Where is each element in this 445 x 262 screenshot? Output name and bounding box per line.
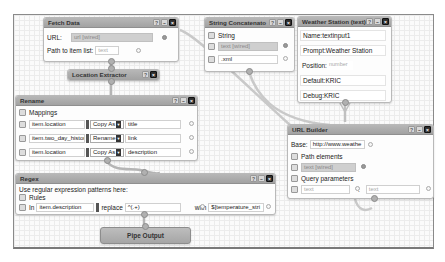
string-terminal[interactable] bbox=[283, 43, 288, 48]
path-terminal[interactable] bbox=[136, 48, 141, 53]
minimize-icon[interactable]: – bbox=[161, 19, 168, 26]
field-picker-icon[interactable] bbox=[96, 203, 99, 212]
regex-replace-input[interactable]: ^(.+) bbox=[125, 203, 181, 212]
add-string-button[interactable] bbox=[208, 32, 215, 39]
default-field[interactable]: Default:KRIC bbox=[300, 75, 386, 86]
output-terminal[interactable] bbox=[141, 211, 148, 218]
regex-with-input[interactable]: $[temperature_stri bbox=[208, 203, 264, 212]
help-icon[interactable]: ? bbox=[408, 126, 415, 133]
pipe-output-module[interactable]: Pipe Output bbox=[100, 227, 191, 244]
url-terminal[interactable] bbox=[162, 35, 167, 40]
module-title: Fetch Data bbox=[48, 19, 80, 26]
mapping-field-input[interactable]: item.location bbox=[29, 148, 85, 157]
with-terminal[interactable] bbox=[266, 204, 271, 209]
input-terminal[interactable] bbox=[141, 169, 148, 176]
path-input[interactable]: text bbox=[95, 46, 119, 55]
help-icon[interactable]: ? bbox=[172, 97, 179, 104]
fetch-data-header[interactable]: Fetch Data ? – × bbox=[44, 18, 178, 28]
query-key-input[interactable]: text bbox=[301, 185, 350, 194]
input-terminal[interactable] bbox=[108, 65, 115, 72]
query-value-input[interactable]: text bbox=[366, 185, 420, 194]
path-element-terminal[interactable] bbox=[361, 164, 366, 169]
regex-description: Use regular expression patterns here: bbox=[19, 186, 128, 193]
minimize-icon[interactable]: – bbox=[258, 175, 265, 182]
base-input[interactable]: http://www.weathe bbox=[310, 140, 365, 149]
string-terminal[interactable] bbox=[283, 56, 288, 61]
remove-string-button[interactable] bbox=[208, 43, 215, 50]
rename-module[interactable]: Rename ? – × Mappings item.location Copy… bbox=[15, 95, 198, 161]
output-terminal[interactable] bbox=[371, 195, 378, 202]
mapping-op-select[interactable]: Copy As ▼ bbox=[90, 148, 124, 157]
help-icon[interactable]: ? bbox=[142, 71, 149, 78]
weather-station-header[interactable]: Weather Station (text) ? – × bbox=[298, 17, 391, 27]
close-icon[interactable]: × bbox=[424, 126, 431, 133]
regex-in-input[interactable]: item.description bbox=[36, 203, 94, 212]
close-icon[interactable]: × bbox=[285, 19, 292, 26]
mapping-field-input[interactable]: item.two_day_history bbox=[29, 134, 85, 143]
field-picker-icon[interactable] bbox=[86, 134, 89, 143]
string-input[interactable]: .xml bbox=[218, 55, 278, 64]
query-key-terminal[interactable] bbox=[355, 186, 360, 191]
add-rule-button[interactable] bbox=[19, 194, 26, 201]
close-icon[interactable]: × bbox=[188, 97, 195, 104]
string-concatenate-header[interactable]: String Concatenato ? – × bbox=[205, 18, 294, 28]
regex-module[interactable]: Regex ? – × Use regular expression patte… bbox=[15, 173, 276, 215]
input-terminal[interactable] bbox=[142, 223, 149, 230]
url-input[interactable]: url [wired] bbox=[71, 33, 153, 42]
output-terminal[interactable] bbox=[246, 68, 253, 75]
string-input[interactable]: text [wired] bbox=[218, 42, 278, 51]
field-picker-icon[interactable] bbox=[86, 120, 89, 129]
rename-header[interactable]: Rename ? – × bbox=[16, 96, 197, 106]
field-picker-icon[interactable] bbox=[86, 148, 89, 157]
remove-mapping-button[interactable] bbox=[19, 121, 26, 128]
url-builder-header[interactable]: URL Builder ? – × bbox=[288, 125, 433, 135]
query-value-terminal[interactable] bbox=[426, 186, 431, 191]
remove-mapping-button[interactable] bbox=[19, 149, 26, 156]
remove-path-element-button[interactable] bbox=[291, 164, 298, 171]
minimize-icon[interactable]: – bbox=[277, 19, 284, 26]
path-element-input[interactable]: text [wired] bbox=[301, 163, 356, 172]
fetch-data-module[interactable]: Fetch Data ? – × URL: url [wired] Path t… bbox=[43, 17, 179, 62]
mapping-terminal[interactable] bbox=[189, 121, 194, 126]
mapping-terminal[interactable] bbox=[189, 149, 194, 154]
remove-rule-button[interactable] bbox=[19, 204, 26, 211]
output-terminal[interactable] bbox=[108, 58, 115, 65]
help-icon[interactable]: ? bbox=[269, 19, 276, 26]
remove-mapping-button[interactable] bbox=[19, 135, 26, 142]
mapping-target-input[interactable]: title bbox=[125, 120, 181, 129]
add-mapping-button[interactable] bbox=[19, 109, 26, 116]
output-terminal[interactable] bbox=[108, 78, 115, 85]
location-extractor-module[interactable]: Location Extractor ? × bbox=[67, 69, 160, 81]
mapping-target-input[interactable]: description bbox=[125, 148, 181, 157]
minimize-icon[interactable]: – bbox=[416, 126, 423, 133]
add-query-parameter-button[interactable] bbox=[291, 175, 298, 182]
name-field[interactable]: Name:textinput1 bbox=[300, 30, 386, 41]
replace-terminal[interactable] bbox=[200, 204, 205, 209]
close-icon[interactable]: × bbox=[382, 18, 389, 25]
minimize-icon[interactable]: – bbox=[374, 18, 381, 25]
help-icon[interactable]: ? bbox=[153, 19, 160, 26]
close-icon[interactable]: × bbox=[169, 19, 176, 26]
weather-station-module[interactable]: Weather Station (text) ? – × Name:textin… bbox=[297, 16, 392, 103]
mapping-field-input[interactable]: item.location bbox=[29, 120, 85, 129]
help-icon[interactable]: ? bbox=[366, 18, 373, 25]
mapping-terminal[interactable] bbox=[189, 135, 194, 140]
mapping-op-select[interactable]: Copy As ▼ bbox=[90, 120, 124, 129]
string-concatenate-module[interactable]: String Concatenato ? – × String text [wi… bbox=[204, 17, 295, 72]
minimize-icon[interactable]: – bbox=[180, 97, 187, 104]
query-parameters-label: Query parameters bbox=[301, 175, 353, 182]
base-terminal[interactable] bbox=[368, 142, 373, 147]
position-field[interactable]: number bbox=[327, 61, 353, 70]
prompt-field[interactable]: Prompt:Weather Station bbox=[300, 45, 386, 56]
mapping-target-input[interactable]: link bbox=[125, 134, 181, 143]
add-path-element-button[interactable] bbox=[291, 153, 298, 160]
output-terminal[interactable] bbox=[342, 99, 349, 106]
close-icon[interactable]: × bbox=[150, 71, 157, 78]
remove-string-button[interactable] bbox=[208, 56, 215, 63]
output-terminal[interactable] bbox=[104, 157, 111, 164]
url-builder-module[interactable]: URL Builder ? – × Base: http://www.weath… bbox=[287, 124, 434, 199]
close-icon[interactable]: × bbox=[266, 175, 273, 182]
help-icon[interactable]: ? bbox=[250, 175, 257, 182]
remove-query-parameter-button[interactable] bbox=[291, 186, 298, 193]
mapping-op-select[interactable]: Rename ▼ bbox=[90, 134, 124, 143]
